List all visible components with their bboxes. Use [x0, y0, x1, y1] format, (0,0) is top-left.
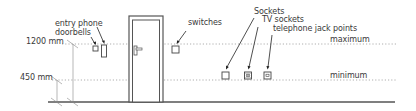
height-1200-label: 1200 mm — [26, 38, 64, 46]
switch-icon — [172, 46, 179, 53]
diagram-canvas — [0, 0, 416, 111]
doorbells-label: doorbells — [55, 29, 91, 37]
telephone-jack-icon — [264, 72, 271, 79]
arrowhead — [266, 66, 269, 70]
arrow — [227, 18, 254, 67]
height-450-label: 450 mm — [20, 74, 53, 82]
tv-sockets-label: TV sockets — [262, 16, 304, 24]
arrow — [249, 27, 258, 67]
mounting-height-diagram: entry phone doorbells 1200 mm 450 mm swi… — [0, 0, 416, 111]
door-handle-plate — [134, 46, 137, 55]
door-handle — [136, 48, 142, 50]
doorbell-icon — [102, 45, 107, 57]
socket-icon — [222, 72, 229, 79]
arrowhead — [102, 40, 105, 43]
arrow — [268, 35, 272, 67]
door-leaf — [133, 20, 160, 102]
tv-socket-icon — [245, 72, 252, 79]
entry-phone-icon — [93, 46, 98, 51]
maximum-label: maximum — [330, 36, 370, 44]
arrowhead — [248, 66, 251, 70]
door — [129, 16, 163, 102]
arrow — [178, 31, 186, 42]
arrow — [97, 27, 104, 42]
telephone-jack-points-label: telephone jack points — [273, 25, 357, 33]
minimum-label: minimum — [330, 72, 367, 80]
entry-phone-label: entry phone — [55, 20, 103, 28]
switches-label: switches — [188, 19, 222, 27]
